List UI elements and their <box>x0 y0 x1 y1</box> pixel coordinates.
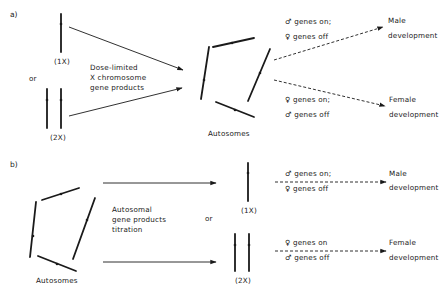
female-outcome-line-1: Female <box>389 95 417 104</box>
x-chromosomes-2x-icon <box>46 89 63 128</box>
x-2x-label: (2X) <box>235 276 251 285</box>
x-2x-label: (2X) <box>50 133 66 142</box>
female-outcome-line-1: Female <box>389 238 417 247</box>
autosomes-label: Autosomes <box>208 129 250 138</box>
x-chromosomes-2x-icon <box>234 234 251 271</box>
mechanism-line-3: gene products <box>90 83 144 92</box>
female-path-line-2: ♂ genes off <box>285 253 330 262</box>
male-path-line-2: ♀ genes off <box>285 184 328 193</box>
female-outcome-line-2: development <box>389 110 439 119</box>
mechanism-line-2: gene products <box>112 215 166 224</box>
sex-determination-diagram: a) (1X) or (2X) Dose-limited X chromosom… <box>0 0 448 292</box>
male-path-line-1: ♂ genes on; <box>285 17 331 26</box>
panel-a-label: a) <box>10 10 18 19</box>
autosomes-icon <box>201 38 270 117</box>
or-label: or <box>205 214 213 223</box>
male-outcome-line-2: development <box>388 31 438 40</box>
x-chromosome-1x-icon <box>247 163 250 201</box>
autosomes-label: Autosomes <box>36 276 78 285</box>
mechanism-line-1: Dose-limited <box>90 63 138 72</box>
panel-b-label: b) <box>10 160 18 169</box>
male-outcome-line-1: Male <box>389 169 407 178</box>
female-path-line-1: ♀ genes on <box>285 238 328 247</box>
or-label: or <box>29 74 37 83</box>
male-path-line-2: ♀ genes off <box>285 32 328 41</box>
autosomes-icon <box>30 188 95 271</box>
panel-b: b) Autosomes Autosomal gene products tit… <box>10 160 439 285</box>
mechanism-line-2: X chromosome <box>90 73 147 82</box>
mechanism-line-3: titration <box>112 225 143 234</box>
female-path-line-1: ♀ genes on; <box>285 95 330 104</box>
x-1x-label: (1X) <box>54 57 70 66</box>
panel-a: a) (1X) or (2X) Dose-limited X chromosom… <box>10 10 439 142</box>
male-outcome-line-2: development <box>389 183 439 192</box>
arrow-2x-to-autosomes <box>69 88 182 116</box>
female-path-line-2: ♂ genes off <box>285 110 330 119</box>
x-chromosome-1x-icon <box>60 14 63 52</box>
male-path-line-1: ♂ genes on; <box>285 169 331 178</box>
mechanism-line-1: Autosomal <box>112 205 152 214</box>
x-1x-label: (1X) <box>241 206 257 215</box>
female-outcome-line-2: development <box>389 253 439 262</box>
male-outcome-line-1: Male <box>388 16 406 25</box>
